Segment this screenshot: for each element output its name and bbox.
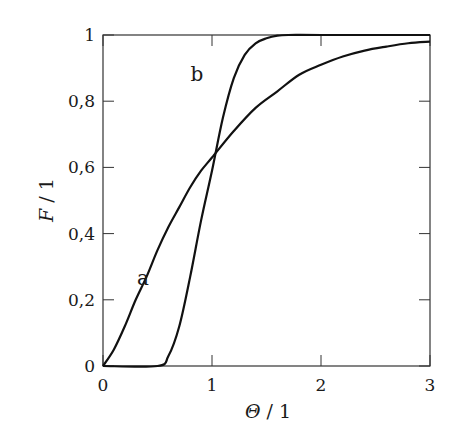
y-tick-label: 0,2 (68, 290, 95, 310)
x-axis-unit: / 1 (261, 400, 292, 422)
y-axis-unit: / 1 (35, 178, 57, 209)
x-axis-symbol: Θ (245, 400, 261, 422)
y-tick-label: 0,4 (68, 224, 95, 244)
y-tick-label: 0,8 (68, 91, 95, 111)
curve-a (103, 42, 430, 366)
x-tick-label: 3 (425, 375, 436, 395)
tick-labels: 012300,20,40,60,81 (68, 25, 435, 395)
x-axis-label: Θ / 1 (245, 400, 291, 422)
y-tick-label: 1 (84, 25, 95, 45)
y-axis-label: F / 1 (35, 178, 57, 223)
x-tick-label: 2 (316, 375, 327, 395)
curve-label-b: b (191, 62, 204, 86)
y-axis-symbol: F (35, 208, 57, 223)
plot-frame (103, 35, 430, 366)
curves (103, 35, 430, 367)
y-tick-label: 0 (84, 356, 95, 376)
chart: 012300,20,40,60,81 ab Θ / 1 F / 1 (0, 0, 458, 446)
curve-b (103, 35, 430, 367)
x-tick-label: 1 (207, 375, 218, 395)
y-tick-label: 0,6 (68, 157, 95, 177)
x-tick-label: 0 (98, 375, 109, 395)
axis-ticks (103, 35, 430, 366)
curve-label-a: a (137, 266, 149, 290)
